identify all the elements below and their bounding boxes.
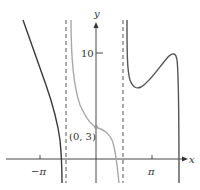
function-graph: y x 10 (0, 3) −π π bbox=[0, 0, 200, 190]
tick-label-10: 10 bbox=[81, 48, 94, 59]
x-axis-arrow-icon bbox=[182, 157, 188, 162]
y-axis-label: y bbox=[93, 8, 100, 19]
point-0-3 bbox=[94, 125, 98, 129]
point-label: (0, 3) bbox=[69, 131, 96, 142]
y-axis-arrow-icon bbox=[94, 22, 99, 28]
tick-label-neg-pi: −π bbox=[31, 166, 46, 177]
tick-label-pi: π bbox=[147, 166, 155, 177]
x-axis-label: x bbox=[189, 154, 195, 165]
